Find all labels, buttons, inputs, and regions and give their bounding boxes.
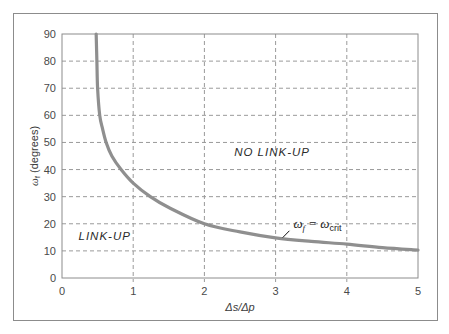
no-link-up-label: NO LINK-UP (234, 146, 310, 158)
y-tick-label: 80 (44, 55, 56, 67)
y-tick-labels: 0102030405060708090 (44, 28, 56, 284)
x-tick-label: 1 (130, 285, 136, 297)
annotation-pointer-line (283, 231, 290, 238)
y-tick-label: 10 (44, 245, 56, 257)
y-tick-label: 30 (44, 191, 56, 203)
x-tick-label: 5 (415, 285, 421, 297)
y-tick-label: 20 (44, 218, 56, 230)
y-tick-label: 0 (50, 272, 56, 284)
x-tick-label: 4 (344, 285, 350, 297)
link-up-label: LINK-UP (79, 230, 131, 242)
line-chart: 0102030405060708090 012345 NO LINK-UP LI… (0, 0, 449, 334)
y-axis-label: ωf (degrees) (28, 126, 42, 186)
omega-f-equals-omega-crit-label: ωf = ωcrit (293, 216, 342, 233)
critical-angle-curve (96, 34, 418, 250)
y-tick-label: 70 (44, 82, 56, 94)
x-tick-label: 3 (273, 285, 279, 297)
y-tick-label: 50 (44, 136, 56, 148)
x-tick-label: 2 (201, 285, 207, 297)
y-tick-label: 90 (44, 28, 56, 40)
x-axis-label: Δs/Δp (224, 301, 254, 313)
x-tick-label: 0 (59, 285, 65, 297)
y-tick-label: 40 (44, 164, 56, 176)
y-tick-label: 60 (44, 109, 56, 121)
x-tick-labels: 012345 (59, 285, 421, 297)
